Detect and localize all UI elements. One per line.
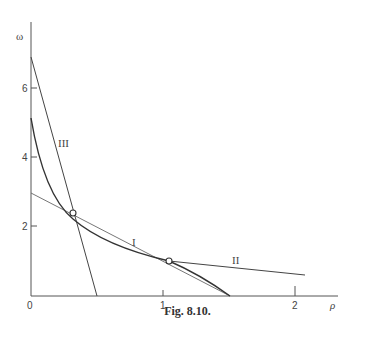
- y-tick-label-4: 4: [22, 152, 28, 163]
- y-tick-label-2: 2: [22, 221, 28, 232]
- label-II: II: [232, 254, 240, 266]
- line-III: [31, 57, 97, 296]
- label-III: III: [58, 137, 69, 149]
- chart: 2 4 6 0 1 2 ω ρ I II III: [0, 0, 375, 343]
- label-I: I: [132, 236, 136, 248]
- intersection-marker-lower: [166, 258, 172, 264]
- y-tick-label-6: 6: [22, 83, 28, 94]
- y-axis-label: ω: [16, 30, 23, 42]
- figure-caption: Fig. 8.10.: [0, 304, 375, 319]
- intersection-marker-upper: [70, 210, 76, 216]
- line-I: [31, 193, 230, 296]
